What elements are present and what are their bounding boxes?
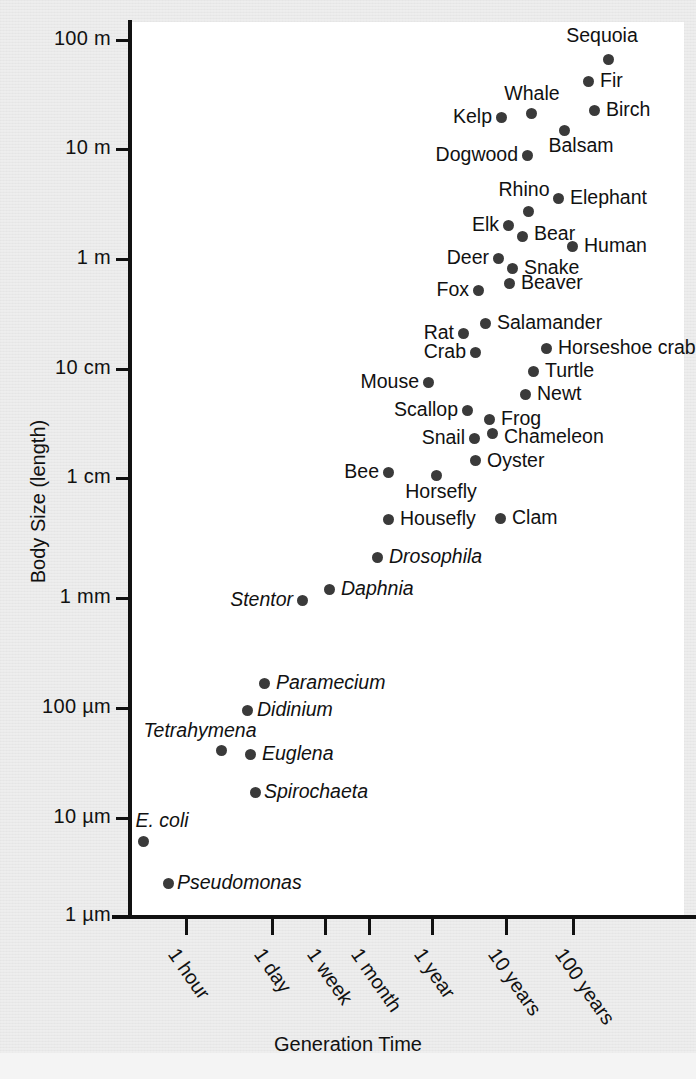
data-point [458,328,469,339]
data-point-label: Balsam [548,136,613,156]
data-point [487,428,498,439]
data-point [523,206,534,217]
y-tick-mark [116,915,132,918]
data-point-label: Newt [537,384,581,404]
data-point-label: E. coli [135,811,188,831]
y-tick-label: 1 µm [65,903,111,926]
x-tick-mark [271,918,274,935]
data-point [589,105,600,116]
y-tick-mark [116,597,132,600]
y-tick-label: 1 cm [66,465,111,488]
x-axis-title: Generation Time [0,1033,696,1056]
data-point [495,513,506,524]
x-tick-mark [431,918,434,935]
data-point [541,343,552,354]
data-point-label: Pseudomonas [177,873,302,893]
data-point-label: Daphnia [341,579,414,599]
x-tick-mark [368,918,371,935]
y-tick-label: 100 µm [42,695,111,718]
data-point [480,318,491,329]
data-point [484,414,495,425]
y-axis-line [128,20,132,919]
x-tick-label: 1 day [249,944,296,997]
data-point [242,705,253,716]
data-point [383,467,394,478]
data-point-label: Deer [447,248,489,268]
data-point-label: Scallop [394,400,458,420]
data-point [462,405,473,416]
data-point-label: Housefly [400,509,476,529]
x-tick-label: 1 year [409,944,460,1003]
data-point [259,678,270,689]
y-tick-mark [116,148,132,151]
x-tick-mark [505,918,508,935]
data-point-label: Stentor [230,590,293,610]
data-point-label: Snail [422,428,465,448]
data-point [583,76,594,87]
data-point [493,253,504,264]
x-tick-label: 1 month [346,944,406,1016]
data-point [372,552,383,563]
data-point-label: Tetrahymena [143,721,256,741]
data-point-label: Didinium [257,700,333,720]
data-point-label: Elk [472,215,499,235]
data-point [469,433,480,444]
data-point [297,595,308,606]
data-point-label: Beaver [521,273,583,293]
data-point [517,231,528,242]
x-tick-label: 100 years [550,944,619,1029]
y-tick-label: 1 mm [60,585,111,608]
y-tick-label: 10 cm [55,356,111,379]
y-tick-mark [116,39,132,42]
x-tick-mark [572,918,575,935]
data-point [383,514,394,525]
data-point-label: Euglena [262,744,334,764]
data-point [216,745,227,756]
figure-container: 100 m10 m1 m10 cm1 cm1 mm100 µm10 µm1 µm… [0,0,696,1079]
x-tick-label: 10 years [483,944,546,1020]
data-point-label: Oyster [487,451,544,471]
y-tick-mark [116,258,132,261]
data-point [503,220,514,231]
x-tick-label: 1 hour [163,944,214,1004]
data-point [553,193,564,204]
data-point-label: Human [584,236,647,256]
data-point [507,263,518,274]
data-point [163,878,174,889]
data-point-label: Sequoia [566,26,638,46]
y-tick-mark [116,368,132,371]
plot-area [131,22,684,917]
y-tick-label: 100 m [54,27,111,50]
x-tick-mark [185,918,188,935]
data-point-label: Clam [512,508,558,528]
data-point [470,347,481,358]
data-point [567,241,578,252]
data-point-label: Spirochaeta [264,782,368,802]
y-tick-label: 10 µm [54,805,112,828]
data-point [250,787,261,798]
data-point [603,54,614,65]
data-point-label: Paramecium [276,673,385,693]
data-point-label: Kelp [453,107,492,127]
data-point [473,285,484,296]
data-point [324,584,335,595]
data-point [431,470,442,481]
data-point [245,749,256,760]
data-point [520,389,531,400]
data-point-label: Bee [344,462,379,482]
data-point [496,112,507,123]
data-point-label: Fox [436,280,469,300]
data-point [528,366,539,377]
data-point [423,377,434,388]
data-point-label: Elephant [570,188,647,208]
data-point-label: Mouse [360,372,419,392]
data-point-label: Horseshoe crab [558,338,696,358]
data-point [504,278,515,289]
y-tick-mark [116,477,132,480]
x-tick-mark [324,918,327,935]
data-point-label: Horsefly [405,482,477,502]
data-point-label: Dogwood [436,145,518,165]
data-point-label: Birch [606,100,650,120]
data-point-label: Crab [424,342,466,362]
data-point-label: Rhino [499,180,550,200]
